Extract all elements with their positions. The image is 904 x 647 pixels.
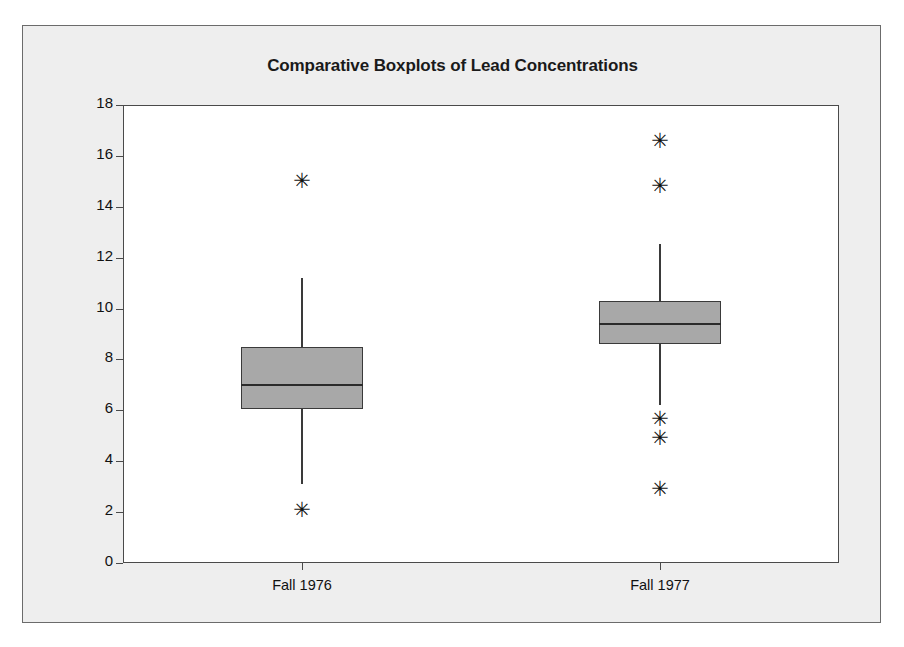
- y-tick-label: 2: [33, 501, 113, 518]
- box-iqr: [241, 347, 363, 409]
- outlier-marker: ✳: [293, 499, 311, 520]
- y-tick-label: 14: [33, 196, 113, 213]
- lower-whisker: [301, 409, 303, 484]
- outlier-marker: ✳: [651, 176, 669, 197]
- y-tick-label: 4: [33, 450, 113, 467]
- y-tick-mark: [116, 359, 123, 360]
- y-tick-mark: [116, 512, 123, 513]
- y-tick-mark: [116, 410, 123, 411]
- y-tick-mark: [116, 105, 123, 106]
- y-tick-mark: [116, 309, 123, 310]
- figure-frame: Comparative Boxplots of Lead Concentrati…: [22, 25, 881, 623]
- x-tick-label: Fall 1977: [590, 577, 730, 593]
- y-tick-label: 6: [33, 399, 113, 416]
- y-tick-label: 18: [33, 94, 113, 111]
- outlier-marker: ✳: [293, 171, 311, 192]
- median-line: [599, 323, 721, 325]
- outlier-marker: ✳: [651, 479, 669, 500]
- upper-whisker: [301, 278, 303, 347]
- y-tick-label: 10: [33, 298, 113, 315]
- y-tick-label: 12: [33, 247, 113, 264]
- y-tick-mark: [116, 258, 123, 259]
- x-tick-mark: [302, 563, 303, 570]
- y-tick-mark: [116, 156, 123, 157]
- plot-area: [123, 105, 839, 563]
- x-tick-label: Fall 1976: [232, 577, 372, 593]
- outlier-marker: ✳: [651, 428, 669, 449]
- y-tick-mark: [116, 461, 123, 462]
- upper-whisker: [659, 244, 661, 301]
- lower-whisker: [659, 344, 661, 405]
- chart-title: Comparative Boxplots of Lead Concentrati…: [23, 56, 882, 76]
- chart-screenshot: Comparative Boxplots of Lead Concentrati…: [0, 0, 904, 647]
- x-tick-mark: [660, 563, 661, 570]
- y-tick-label: 8: [33, 348, 113, 365]
- y-tick-label: 16: [33, 145, 113, 162]
- outlier-marker: ✳: [651, 130, 669, 151]
- y-tick-label: 0: [33, 552, 113, 569]
- y-tick-mark: [116, 563, 123, 564]
- outlier-marker: ✳: [651, 409, 669, 430]
- y-tick-mark: [116, 207, 123, 208]
- median-line: [241, 384, 363, 386]
